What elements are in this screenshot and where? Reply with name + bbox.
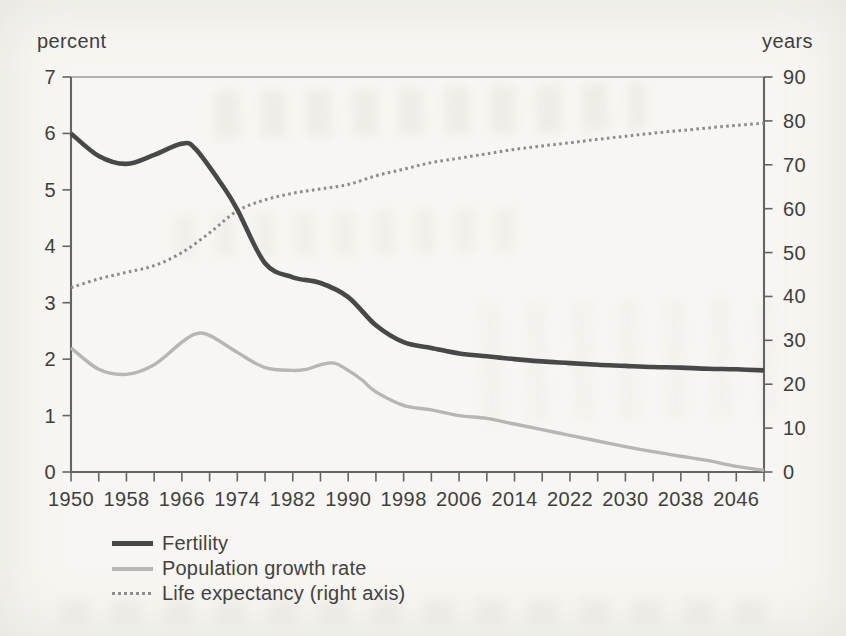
x-axis-tick-label: 1958 [103, 488, 149, 510]
x-axis-tick-label: 2030 [602, 488, 648, 510]
x-axis-tick-label: 1966 [159, 488, 205, 510]
left-axis-tick-label: 2 [44, 348, 56, 370]
left-axis-tick-label: 4 [44, 235, 56, 257]
legend-item-life-expectancy: Life expectancy (right axis) [112, 581, 405, 606]
legend-item-fertility: Fertility [112, 531, 405, 556]
right-axis-tick-label: 40 [783, 285, 806, 307]
fertility-line [71, 133, 764, 370]
x-axis-tick-label: 2006 [436, 488, 482, 510]
right-axis-tick-label: 50 [783, 242, 806, 264]
legend-label-fertility: Fertility [162, 532, 228, 555]
legend-item-population-growth-rate: Population growth rate [112, 556, 405, 581]
x-axis-tick-label: 1974 [214, 488, 260, 510]
left-axis-tick-label: 5 [44, 179, 56, 201]
legend-label-life-expectancy: Life expectancy (right axis) [162, 582, 405, 605]
right-axis-tick-label: 20 [783, 373, 806, 395]
fertility-line-swatch [112, 541, 153, 546]
plot-axes-frame [71, 77, 764, 472]
population-growth-rate-line [71, 333, 764, 470]
right-axis-tick-label: 0 [783, 461, 795, 483]
life-expectancy-line-swatch [112, 592, 153, 595]
x-axis-tick-label: 1950 [48, 488, 94, 510]
left-axis-tick-label: 7 [44, 66, 56, 88]
x-axis-tick-label: 1998 [381, 488, 427, 510]
right-axis-tick-label: 10 [783, 417, 806, 439]
left-axis-tick-label: 3 [44, 292, 56, 314]
right-axis-tick-label: 60 [783, 198, 806, 220]
legend-label-population-growth-rate: Population growth rate [162, 557, 367, 580]
population-growth-rate-line-swatch [112, 567, 153, 571]
right-axis-tick-label: 30 [783, 329, 806, 351]
x-axis-tick-label: 2046 [713, 488, 759, 510]
line-chart: 0123456701020304050607080901950195819661… [0, 0, 846, 520]
chart-legend: FertilityPopulation growth rateLife expe… [112, 531, 405, 606]
left-axis-tick-label: 1 [44, 405, 56, 427]
x-axis-tick-label: 2038 [658, 488, 704, 510]
right-axis-tick-label: 70 [783, 154, 806, 176]
x-axis-tick-label: 1990 [325, 488, 371, 510]
x-axis-tick-label: 2014 [491, 488, 537, 510]
right-axis-tick-label: 80 [783, 110, 806, 132]
scanned-book-page: percent years 01234567010203040506070809… [0, 0, 846, 636]
x-axis-tick-label: 1982 [270, 488, 316, 510]
left-axis-tick-label: 0 [44, 461, 56, 483]
right-axis-tick-label: 90 [783, 66, 806, 88]
left-axis-tick-label: 6 [44, 122, 56, 144]
x-axis-tick-label: 2022 [547, 488, 593, 510]
